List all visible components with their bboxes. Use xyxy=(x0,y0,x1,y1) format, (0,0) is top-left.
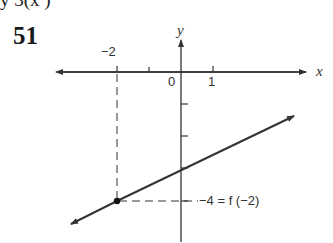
y-axis-label: y xyxy=(177,22,184,39)
x-tick-label-neg2: −2 xyxy=(101,44,116,59)
point-annotation: −4 = f (−2) xyxy=(199,193,259,208)
x-axis-label: x xyxy=(316,63,323,80)
point-marker xyxy=(114,198,120,204)
x-tick-label-0: 0 xyxy=(168,74,175,89)
y-axis xyxy=(181,40,188,242)
function-line xyxy=(117,116,294,201)
x-tick-label-1: 1 xyxy=(208,74,215,89)
graph xyxy=(0,0,333,243)
